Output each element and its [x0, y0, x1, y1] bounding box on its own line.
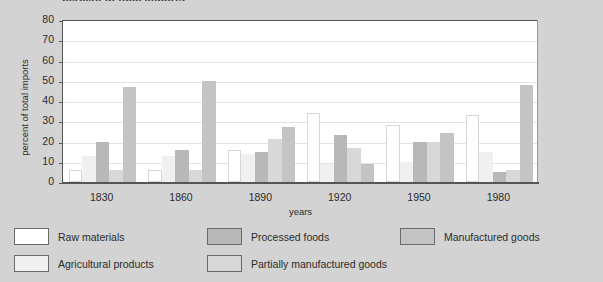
y-axis-tick-label: 0 [22, 175, 54, 187]
bar-1830-manufactured-goods [123, 87, 137, 182]
x-axis-tick-label: 1980 [463, 191, 533, 203]
x-axis-line [62, 182, 539, 184]
chart-root: percent of total imports percent of tota… [0, 0, 603, 282]
bar-1950-processed-foods [413, 142, 427, 183]
legend-item-processed-foods[interactable]: Processed foods [207, 228, 329, 245]
bar-1890-processed-foods [255, 152, 269, 182]
chart-legend: Raw materialsAgricultural productsProces… [0, 228, 603, 282]
bar-1860-partially-manufactured-goods [189, 170, 203, 182]
chart-title-sliver: percent of total imports [62, 0, 185, 1]
legend-item-partially-manufactured-goods[interactable]: Partially manufactured goods [207, 255, 387, 272]
x-axis-tick-label: 1860 [146, 191, 216, 203]
bar-1890-raw-materials [228, 150, 242, 182]
y-axis-tick-label: 20 [22, 135, 54, 147]
legend-item-raw-materials[interactable]: Raw materials [14, 228, 125, 245]
legend-swatch-icon [207, 255, 242, 272]
legend-swatch-icon [14, 228, 49, 245]
bar-1980-agricultural-products [479, 152, 493, 182]
x-axis-title: years [62, 206, 539, 217]
legend-item-manufactured-goods[interactable]: Manufactured goods [400, 228, 540, 245]
bar-1980-processed-foods [493, 172, 507, 182]
bar-1950-partially-manufactured-goods [427, 142, 441, 183]
y-axis-tick-label: 50 [22, 74, 54, 86]
y-axis-tick-label: 40 [22, 94, 54, 106]
legend-label: Agricultural products [58, 258, 154, 270]
bar-1830-raw-materials [69, 170, 83, 182]
legend-item-agricultural-products[interactable]: Agricultural products [14, 255, 154, 272]
bar-1890-agricultural-products [241, 154, 255, 182]
legend-label: Raw materials [58, 231, 125, 243]
bar-1830-processed-foods [96, 142, 110, 183]
bar-1920-processed-foods [334, 135, 348, 182]
bar-1860-raw-materials [148, 170, 162, 182]
bar-1830-partially-manufactured-goods [109, 170, 123, 182]
bar-1980-partially-manufactured-goods [506, 170, 520, 182]
bar-1860-agricultural-products [162, 156, 176, 182]
x-axis-tick-label: 1830 [67, 191, 137, 203]
legend-swatch-icon [207, 228, 242, 245]
y-axis-tick-label: 30 [22, 114, 54, 126]
bar-1950-raw-materials [386, 125, 400, 182]
bar-1920-agricultural-products [320, 164, 334, 182]
bar-1890-manufactured-goods [282, 127, 296, 182]
bar-1980-raw-materials [466, 115, 480, 182]
y-axis-tick-label: 80 [22, 13, 54, 25]
legend-label: Processed foods [251, 231, 329, 243]
legend-label: Manufactured goods [444, 231, 540, 243]
bar-1920-manufactured-goods [361, 164, 375, 182]
x-axis-tick-label: 1950 [384, 191, 454, 203]
bar-1920-partially-manufactured-goods [347, 148, 361, 182]
bar-1920-raw-materials [307, 113, 321, 182]
y-axis-tick-label: 10 [22, 155, 54, 167]
bar-1830-agricultural-products [82, 156, 96, 182]
bar-1860-processed-foods [175, 150, 189, 182]
bar-1860-manufactured-goods [202, 81, 216, 182]
bar-1950-agricultural-products [400, 162, 414, 182]
legend-label: Partially manufactured goods [251, 258, 387, 270]
bar-1890-partially-manufactured-goods [268, 139, 282, 182]
bar-1980-manufactured-goods [520, 85, 534, 182]
x-axis-tick-label: 1920 [305, 191, 375, 203]
y-axis-tick-label: 60 [22, 54, 54, 66]
x-axis-tick-label: 1890 [225, 191, 295, 203]
y-axis-tick-label: 70 [22, 33, 54, 45]
legend-swatch-icon [14, 255, 49, 272]
legend-swatch-icon [400, 228, 435, 245]
bar-1950-manufactured-goods [440, 133, 454, 182]
